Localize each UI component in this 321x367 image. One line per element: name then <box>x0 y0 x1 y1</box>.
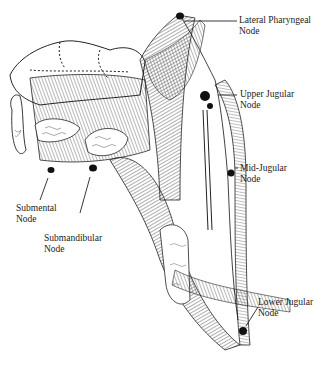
label-lateral-pharyngeal-node: Lateral Pharyngeal Node <box>239 15 311 37</box>
thyroid-gland <box>160 225 190 304</box>
node-upper-jugular <box>200 91 210 101</box>
anatomy-figure: Lateral Pharyngeal Node Upper Jugular No… <box>0 0 321 367</box>
node-lateral-pharyngeal <box>176 13 184 20</box>
node-mid-jugular <box>228 170 235 177</box>
label-upper-jugular-node: Upper Jugular Node <box>240 89 294 111</box>
node-upper-jugular-2 <box>207 103 213 109</box>
node-lower-jugular <box>239 327 247 335</box>
lip-teeth <box>11 95 26 154</box>
label-submandibular-node: Submandibular Node <box>44 233 102 255</box>
node-submandibular <box>89 165 97 172</box>
label-mid-jugular-node: Mid-Jugular Node <box>240 163 287 185</box>
label-lower-jugular-node: Lower Jugular Node <box>258 297 313 319</box>
label-submental-node: Submental Node <box>16 203 57 225</box>
node-submental <box>48 167 55 173</box>
